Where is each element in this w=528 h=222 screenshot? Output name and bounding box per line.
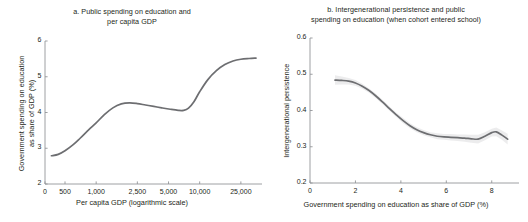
tick-label-y: 5	[38, 72, 42, 79]
tick-label-y: 2	[38, 179, 42, 186]
figure-container: a. Public spending on education and per …	[0, 0, 528, 222]
data-curve	[51, 58, 256, 156]
tick-label-y: 0.5	[297, 69, 307, 76]
tick-label-y: 6	[38, 36, 42, 43]
tick-label-y: 0.2	[297, 178, 307, 185]
tick-label-y: 0.6	[297, 33, 307, 40]
tick-label-y: 4	[38, 108, 42, 115]
tick-label-y: 0.4	[297, 106, 307, 113]
panel-b-intergenerational-persistence: b. Intergenerational persistence and pub…	[264, 0, 528, 222]
panel-a-public-spending-gdp: a. Public spending on education and per …	[0, 0, 264, 222]
tick-label-x: 25,000	[211, 188, 271, 195]
tick-label-y: 0.3	[297, 142, 307, 149]
tick-label-y: 3	[38, 143, 42, 150]
tick-label-x: 8	[462, 187, 522, 194]
